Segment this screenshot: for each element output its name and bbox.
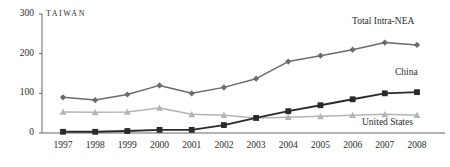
x-axis-tick-label: 2007 [368, 140, 402, 150]
x-axis-tick-label: 1997 [46, 140, 80, 150]
x-axis-tick-label: 2000 [143, 140, 177, 150]
series-line [63, 43, 417, 101]
data-point-marker [157, 127, 163, 133]
x-axis-tick-label: 1999 [110, 140, 144, 150]
data-point-marker [221, 122, 227, 128]
data-point-marker [317, 53, 323, 59]
x-axis-tick-label: 2004 [271, 140, 305, 150]
data-point-marker [350, 47, 356, 53]
x-axis-tick-label: 2001 [175, 140, 209, 150]
data-point-marker [285, 59, 291, 65]
x-axis-tick-label: 1998 [78, 140, 112, 150]
x-axis-tick-label: 2006 [336, 140, 370, 150]
data-point-marker [382, 90, 388, 96]
data-point-marker [350, 96, 356, 102]
series-united-states [60, 105, 421, 121]
data-point-marker [60, 94, 66, 100]
x-axis-tick-label: 2005 [303, 140, 337, 150]
x-axis-tick-label: 2008 [400, 140, 434, 150]
data-point-marker [382, 39, 388, 45]
data-point-marker [285, 108, 291, 114]
data-point-marker [414, 89, 420, 95]
data-point-marker [92, 97, 98, 103]
data-point-marker [124, 91, 130, 97]
series-line [63, 108, 417, 118]
data-point-marker [253, 76, 259, 82]
data-point-marker [124, 128, 130, 134]
series-total-intra-nea [60, 39, 420, 103]
data-point-marker [414, 42, 420, 48]
chart-container: TAIWAN 300 200 100 0 Total Intra-NEA Chi… [0, 0, 450, 167]
data-point-marker [253, 115, 259, 121]
data-point-marker [221, 84, 227, 90]
x-axis-tick-label: 2002 [207, 140, 241, 150]
data-point-marker [156, 82, 162, 88]
data-point-marker [189, 90, 195, 96]
x-axis-tick-label: 2003 [239, 140, 273, 150]
data-point-marker [318, 102, 324, 108]
data-point-marker [189, 127, 195, 133]
data-point-marker [60, 129, 66, 135]
data-point-marker [92, 129, 98, 135]
